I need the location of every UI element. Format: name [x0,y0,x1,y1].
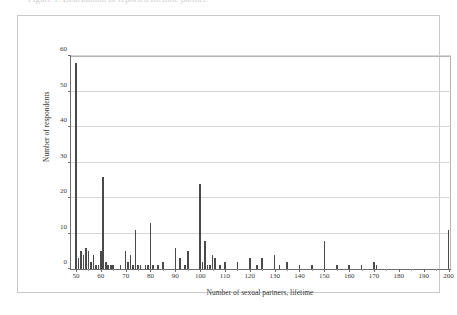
bar [209,265,211,269]
x-tick-label-80: 80 [147,272,154,280]
bar [83,255,85,269]
x-tick-mark-95 [188,269,189,271]
x-tick-label-90: 90 [172,272,179,280]
bar [85,248,87,269]
bar [95,265,97,269]
x-tick-mark-75 [138,269,139,271]
y-tick-mark-50 [68,91,71,92]
x-tick-label-70: 70 [122,272,129,280]
figure-frame: Number of respondents 0102030405060 5060… [17,15,440,293]
bar [78,258,80,269]
x-tick-label-60: 60 [97,272,104,280]
bar [98,265,100,269]
x-tick-label-100: 100 [195,272,206,280]
bar [373,262,375,269]
bar [125,251,127,269]
x-tick-label-130: 130 [269,272,280,280]
x-tick-label-180: 180 [394,272,405,280]
x-tick-label-190: 190 [418,272,429,280]
y-tick-mark-0 [68,268,71,269]
bar [102,177,104,269]
bar [140,265,142,269]
bar [152,265,154,269]
bar [376,265,378,269]
bar [279,265,281,269]
bar [162,262,164,269]
y-tick-label-0: 0 [64,259,68,266]
gridline-y-40 [71,126,451,127]
y-tick-mark-10 [68,233,71,234]
bar [120,265,122,269]
y-tick-label-30: 30 [60,152,67,159]
bar [237,262,239,269]
bar [299,265,301,269]
bar [224,262,226,269]
x-tick-mark-145 [312,269,313,271]
y-tick-label-60: 60 [60,46,67,53]
y-tick-mark-60 [68,55,71,56]
y-tick-mark-30 [68,162,71,163]
x-tick-mark-65 [113,269,114,271]
y-tick-label-20: 20 [60,188,67,195]
bar [80,251,82,269]
bar [93,255,95,269]
bar [214,258,216,269]
bar [311,265,313,269]
bar [105,262,107,269]
bar [274,255,276,269]
bar [145,265,147,269]
x-tick-mark-185 [411,269,412,271]
gridline-y-50 [71,91,451,92]
bar [249,258,251,269]
x-tick-label-50: 50 [72,272,79,280]
bar [256,265,258,269]
bar [448,230,450,269]
x-tick-mark-115 [237,269,238,271]
bar [286,262,288,269]
bar [135,230,137,269]
bar [175,248,177,269]
x-tick-mark-195 [436,269,437,271]
bar [361,265,363,269]
gridline-y-20 [71,197,451,198]
bar [137,265,139,269]
bar [336,265,338,269]
bar [132,265,134,269]
bar [184,265,186,269]
x-tick-mark-125 [262,269,263,271]
bar [147,265,149,269]
y-axis-label: Number of respondents [43,92,51,162]
bar [199,184,201,269]
y-tick-label-10: 10 [60,223,67,230]
bar [202,262,204,269]
x-tick-label-120: 120 [245,272,256,280]
bar [204,241,206,269]
bar [112,265,114,269]
x-axis-label: Number of sexual partners, lifetime [70,288,450,297]
bar [150,223,152,269]
x-tick-mark-135 [287,269,288,271]
x-tick-mark-55 [88,269,89,271]
x-tick-label-200: 200 [443,272,454,280]
bar [261,258,263,269]
bar [157,265,159,269]
y-tick-mark-40 [68,126,71,127]
gridline-y-10 [71,233,451,234]
x-tick-mark-85 [163,269,164,271]
bar [212,255,214,269]
bar [127,262,129,269]
gridline-y-60 [71,55,451,56]
x-tick-mark-155 [337,269,338,271]
x-tick-label-110: 110 [220,272,230,280]
x-tick-mark-175 [386,269,387,271]
bar [88,251,90,269]
bar [324,241,326,269]
bar [130,255,132,269]
x-tick-label-140: 140 [294,272,305,280]
bar [207,265,209,269]
bar [107,265,109,269]
bar [348,265,350,269]
y-tick-mark-20 [68,197,71,198]
x-tick-label-170: 170 [369,272,380,280]
y-tick-label-40: 40 [60,117,67,124]
